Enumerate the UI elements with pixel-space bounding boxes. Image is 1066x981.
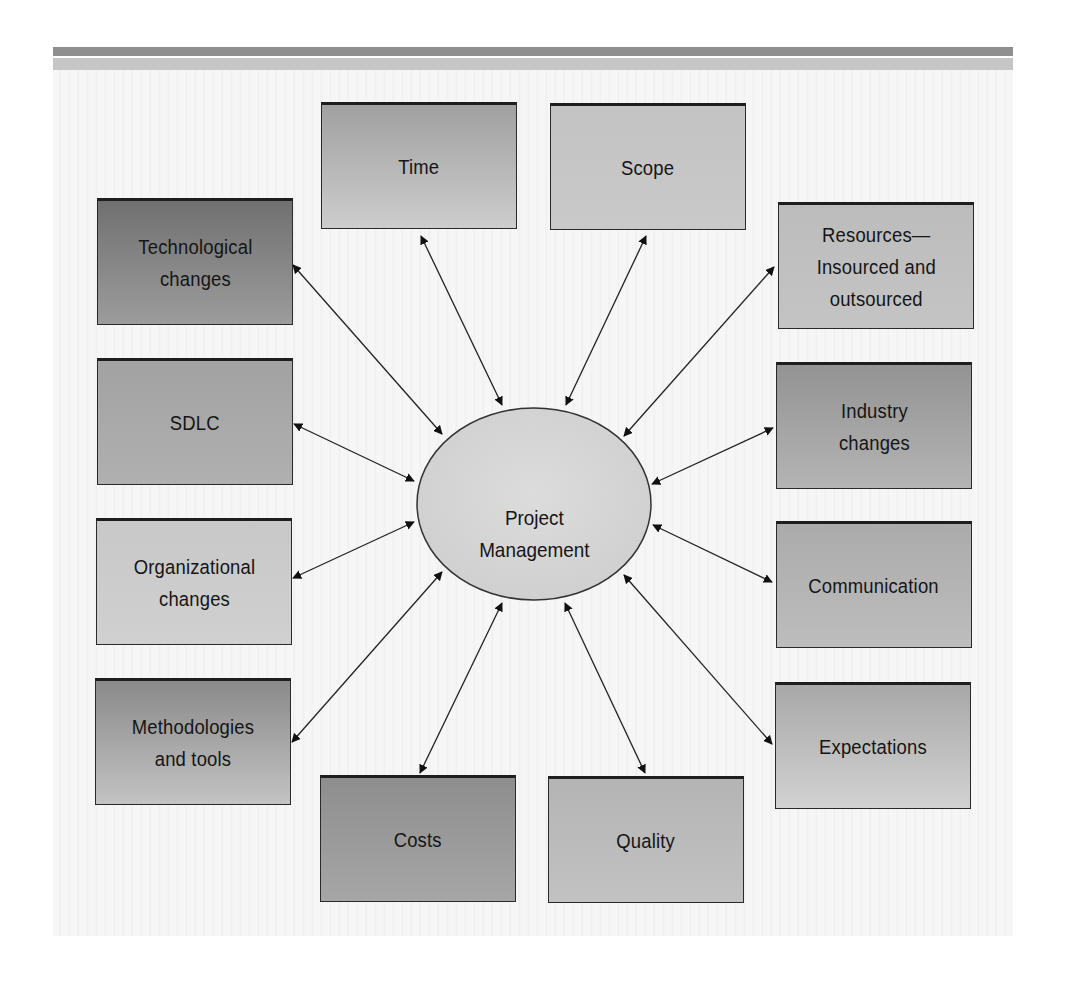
arrow-quality [565,603,645,773]
node-organizational-changes: Organizational changes [96,518,292,645]
arrow-organizational-changes [293,522,414,578]
node-label: Quality [617,825,676,857]
node-industry-changes: Industry changes [776,362,972,489]
node-methodologies-and-tools: Methodologies and tools [95,678,291,805]
node-sdlc: SDLC [97,358,293,485]
node-label: Expectations [819,731,927,763]
node-label: Time [398,151,439,183]
node-label: Industry changes [838,395,909,459]
arrow-technological-changes [293,265,442,434]
node-communication: Communication [776,521,972,648]
node-label: SDLC [170,407,220,439]
arrow-costs [420,603,502,773]
project-management-label: Project Management [416,470,652,566]
node-label: Resources— Insourced and outsourced [816,219,935,315]
node-label: Communication [809,570,940,602]
node-label: Costs [394,824,442,856]
arrow-expectations [624,575,772,744]
arrow-industry-changes [652,428,773,484]
arrow-methodologies-and-tools [292,572,442,742]
node-label: Scope [621,152,674,184]
arrow-scope [566,236,646,405]
arrow-time [421,236,502,405]
node-scope: Scope [550,103,746,230]
node-technological-changes: Technological changes [97,198,293,325]
node-costs: Costs [320,775,516,902]
node-time: Time [321,102,517,229]
node-quality: Quality [548,776,744,903]
node-label: Organizational changes [133,551,255,615]
node-expectations: Expectations [775,682,971,809]
arrow-communication [653,525,772,582]
node-resources: Resources— Insourced and outsourced [778,202,974,329]
node-label: Technological changes [138,231,252,295]
arrow-resources [624,267,774,436]
arrow-sdlc [294,424,414,481]
center-label-text: Project Management [479,502,589,566]
node-label: Methodologies and tools [132,711,254,775]
